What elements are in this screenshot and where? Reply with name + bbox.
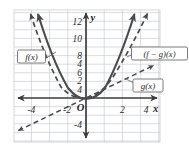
coordinate-graph: 12 10 8 6 4 4 2 -4 -4 -2 2 4 O y x f(x) [0,0,189,157]
x-tick-neg4: -4 [27,105,35,115]
y-tick-12: 12 [73,17,83,27]
origin-label: O [77,102,85,113]
callout-f-minus-g: (f − g)(x) [127,47,188,60]
y-tick-10: 10 [73,34,83,44]
y-tick-2: 2 [77,76,82,86]
y-tick-4: 4 [77,85,82,95]
x-tick-2: 2 [120,105,125,115]
x-tick-4: 4 [144,105,149,115]
x-axis-label: x [152,103,158,114]
y-tick-neg4: -4 [74,120,82,130]
callout-g-label: g(x) [141,81,156,91]
y-axis-label: y [89,12,96,23]
callout-fg-label: (f − g)(x) [143,49,175,59]
figure-container: 12 10 8 6 4 4 2 -4 -4 -2 2 4 O y x f(x) [0,0,189,157]
x-tick-neg2: -2 [63,105,71,115]
y-tick-4b: 4 [77,59,82,69]
callout-f-label: f(x) [25,52,38,62]
